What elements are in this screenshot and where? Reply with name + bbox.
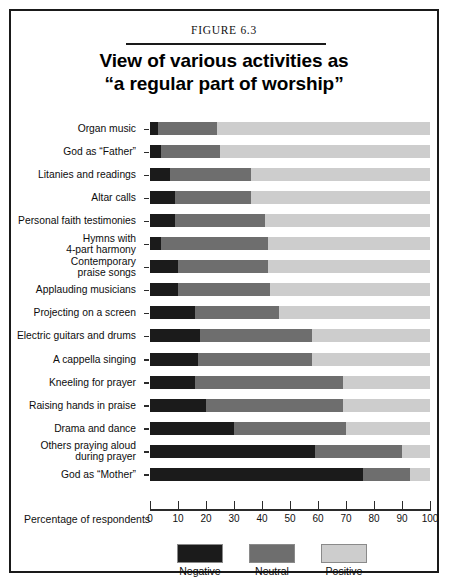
x-axis-tick-label: 40 <box>249 513 275 524</box>
bar-segment-negative <box>150 260 178 273</box>
bar-segment-positive <box>410 468 430 481</box>
bar-row <box>150 191 430 204</box>
category-tick <box>144 129 149 131</box>
bar-segment-negative <box>150 445 315 458</box>
bar-segment-negative <box>150 399 206 412</box>
bar-segment-positive <box>279 306 430 319</box>
x-axis-tick <box>374 501 375 510</box>
bar-segment-negative <box>150 329 200 342</box>
bar-segment-neutral <box>315 445 402 458</box>
legend-label: Positive <box>311 565 377 577</box>
bar-segment-negative <box>150 353 198 366</box>
x-axis-tick <box>290 501 291 510</box>
category-tick <box>144 474 149 476</box>
x-axis-tick-label: 20 <box>193 513 219 524</box>
x-axis-tick-label: 80 <box>361 513 387 524</box>
bar-segment-negative <box>150 306 195 319</box>
x-axis-tick-label: 90 <box>389 513 415 524</box>
bar-row <box>150 399 430 412</box>
x-axis-tick <box>430 501 431 510</box>
category-label: Raising hands in praise <box>0 400 136 411</box>
category-tick <box>144 290 149 292</box>
bar-row <box>150 237 430 250</box>
chart-plot-area: Organ musicGod as “Father”Litanies and r… <box>11 11 437 571</box>
bar-segment-neutral <box>170 168 251 181</box>
bar-row <box>150 353 430 366</box>
bar-segment-negative <box>150 468 363 481</box>
category-tick <box>144 267 149 269</box>
bar-row <box>150 376 430 389</box>
category-label: Drama and dance <box>0 423 136 434</box>
x-axis-caption: Percentage of respondents <box>24 513 150 525</box>
category-tick <box>144 198 149 200</box>
x-axis-tick-label: 70 <box>333 513 359 524</box>
x-axis-tick <box>206 501 207 510</box>
bar-segment-neutral <box>175 191 251 204</box>
bar-row <box>150 260 430 273</box>
bar-segment-positive <box>312 329 430 342</box>
category-label: Organ music <box>0 123 136 134</box>
bar-segment-negative <box>150 237 161 250</box>
category-label: Personal faith testimonies <box>0 215 136 226</box>
legend-item-neutral: Neutral <box>239 544 305 577</box>
bar-segment-positive <box>268 260 430 273</box>
category-tick <box>144 359 149 361</box>
x-axis-tick-label: 60 <box>305 513 331 524</box>
bar-segment-positive <box>343 376 430 389</box>
x-axis-tick <box>402 501 403 510</box>
bar-segment-positive <box>220 145 430 158</box>
bar-segment-positive <box>265 214 430 227</box>
category-tick <box>144 221 149 223</box>
bar-segment-positive <box>217 122 430 135</box>
legend-label: Neutral <box>239 565 305 577</box>
category-label: Projecting on a screen <box>0 307 136 318</box>
figure-frame: FIGURE 6.3 View of various activities as… <box>9 9 439 573</box>
bar-row <box>150 214 430 227</box>
bar-segment-positive <box>270 283 430 296</box>
category-tick <box>144 405 149 407</box>
x-axis-tick-label: 100 <box>417 513 443 524</box>
bar-segment-neutral <box>234 422 346 435</box>
category-tick <box>144 175 149 177</box>
category-tick <box>144 152 149 154</box>
category-label: Litanies and readings <box>0 169 136 180</box>
bar-row <box>150 306 430 319</box>
bar-segment-positive <box>402 445 430 458</box>
bar-segment-negative <box>150 283 178 296</box>
bar-segment-negative <box>150 168 170 181</box>
bar-segment-neutral <box>161 145 220 158</box>
legend-swatch-neutral <box>249 544 295 563</box>
x-axis-tick <box>346 501 347 510</box>
bar-segment-negative <box>150 376 195 389</box>
bar-segment-neutral <box>198 353 313 366</box>
bar-segment-neutral <box>158 122 217 135</box>
bar-segment-neutral <box>175 214 265 227</box>
bar-segment-positive <box>251 168 430 181</box>
bar-row <box>150 422 430 435</box>
bar-segment-negative <box>150 145 161 158</box>
category-label: A cappella singing <box>0 354 136 365</box>
bar-segment-negative <box>150 122 158 135</box>
category-tick <box>144 336 149 338</box>
x-axis-tick <box>262 501 263 510</box>
bar-row <box>150 122 430 135</box>
category-label: Contemporary praise songs <box>0 256 136 278</box>
bar-row <box>150 283 430 296</box>
bar-segment-positive <box>268 237 430 250</box>
bar-segment-neutral <box>200 329 312 342</box>
category-label: Kneeling for prayer <box>0 377 136 388</box>
bar-segment-positive <box>312 353 430 366</box>
x-axis-tick <box>150 501 151 510</box>
bar-segment-negative <box>150 214 175 227</box>
x-axis-tick <box>318 501 319 510</box>
category-label: Applauding musicians <box>0 284 136 295</box>
bar-segment-positive <box>343 399 430 412</box>
category-label: God as “Mother” <box>0 469 136 480</box>
bar-segment-positive <box>251 191 430 204</box>
bar-segment-neutral <box>178 283 270 296</box>
category-tick <box>144 382 149 384</box>
category-label: Electric guitars and drums <box>0 330 136 341</box>
category-label: God as “Father” <box>0 146 136 157</box>
x-axis-tick-label: 30 <box>221 513 247 524</box>
bar-row <box>150 145 430 158</box>
